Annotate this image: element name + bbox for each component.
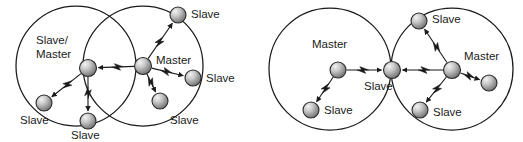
lightning-bolt-icon xyxy=(85,87,92,99)
link-connector xyxy=(98,63,134,70)
lightning-bolt-icon xyxy=(160,67,173,76)
lightning-bolt-icon xyxy=(357,67,369,74)
device-sphere-icon[interactable] xyxy=(80,60,97,77)
device-sphere-icon[interactable] xyxy=(135,58,152,75)
lightning-bolt-icon xyxy=(462,71,475,81)
node-label-slave: Slave xyxy=(170,114,199,126)
device-sphere-icon[interactable] xyxy=(411,13,427,29)
node-label-slave: Slave xyxy=(432,13,461,25)
device-sphere-icon[interactable] xyxy=(330,62,346,78)
node-label-slave: Slave xyxy=(20,114,49,126)
link-connector xyxy=(403,67,444,74)
device-sphere-icon[interactable] xyxy=(80,113,96,129)
device-node[interactable] xyxy=(80,60,97,77)
node-label-master: Master xyxy=(464,50,499,62)
device-node[interactable] xyxy=(36,95,52,111)
node-label-slave: Slave xyxy=(191,8,220,20)
device-node[interactable] xyxy=(411,13,427,29)
node-label-line-1: Slave/ xyxy=(36,34,69,46)
device-sphere-icon[interactable] xyxy=(303,102,319,118)
node-label-slave-master: Slave/Master xyxy=(36,34,71,60)
device-sphere-icon[interactable] xyxy=(481,75,497,91)
link-group xyxy=(52,23,480,111)
lightning-bolt-icon xyxy=(430,40,442,53)
device-sphere-icon[interactable] xyxy=(384,62,401,79)
link-connector xyxy=(52,74,81,97)
device-sphere-icon[interactable] xyxy=(152,93,168,109)
link-connector xyxy=(426,77,446,102)
lightning-bolt-icon xyxy=(145,75,156,88)
scatternet-figure: Slave/MasterMasterSlaveSlaveSlaveSlaveSl… xyxy=(0,0,523,142)
node-label-master: Master xyxy=(156,54,191,66)
device-sphere-icon[interactable] xyxy=(36,95,52,111)
lightning-bolt-icon xyxy=(320,82,332,95)
link-connector xyxy=(152,67,184,76)
node-label-slave: Slave xyxy=(433,106,462,118)
scatternet-diagram-svg: Slave/MasterMasterSlaveSlaveSlaveSlaveSl… xyxy=(0,0,523,142)
device-node[interactable] xyxy=(152,93,168,109)
link-connector xyxy=(317,77,334,102)
device-node[interactable] xyxy=(444,62,461,79)
device-sphere-icon[interactable] xyxy=(170,7,186,23)
lightning-bolt-icon xyxy=(112,63,124,70)
device-node[interactable] xyxy=(412,102,428,118)
link-connector xyxy=(425,29,447,62)
lightning-bolt-icon xyxy=(418,67,430,74)
device-sphere-icon[interactable] xyxy=(444,62,461,79)
device-sphere-icon[interactable] xyxy=(412,102,428,118)
device-node[interactable] xyxy=(80,113,96,129)
device-sphere-icon[interactable] xyxy=(185,70,201,86)
node-label-slave: Slave xyxy=(206,72,235,84)
link-connector xyxy=(145,74,156,92)
node-label-line-2: Master xyxy=(36,48,71,60)
node-label-master: Master xyxy=(312,38,347,50)
link-connector xyxy=(347,67,382,74)
device-node[interactable] xyxy=(303,102,319,118)
device-node[interactable] xyxy=(170,7,186,23)
device-node[interactable] xyxy=(330,62,346,78)
node-label-slave: Slave xyxy=(71,129,100,141)
device-node[interactable] xyxy=(384,62,401,79)
device-node[interactable] xyxy=(481,75,497,91)
device-node[interactable] xyxy=(135,58,152,75)
node-label-slave: Slave xyxy=(364,80,393,92)
node-label-slave: Slave xyxy=(324,104,353,116)
device-node[interactable] xyxy=(185,70,201,86)
link-connector xyxy=(460,71,479,81)
lightning-bolt-icon xyxy=(153,35,165,48)
node-group xyxy=(36,7,497,129)
